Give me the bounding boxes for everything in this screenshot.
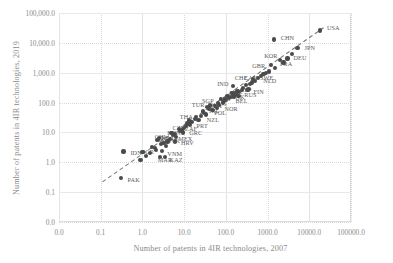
- gridline-vertical: [142, 13, 143, 222]
- y-tick-label: 10.0: [6, 128, 55, 137]
- y-tick-label: 0.1: [6, 188, 55, 197]
- data-point: [164, 144, 168, 148]
- x-axis-title: Number of patents in 4IR technologies, 2…: [0, 244, 393, 253]
- gridline-vertical: [101, 13, 102, 222]
- data-point: [181, 130, 185, 134]
- data-point: [240, 88, 244, 92]
- data-point-label: NOR: [224, 105, 237, 112]
- data-point-label: NZL: [207, 116, 219, 123]
- x-tick-label: 10.0: [178, 228, 191, 237]
- data-point-label: TUR: [192, 101, 205, 108]
- gridline-horizontal: [59, 73, 351, 74]
- data-point: [187, 118, 191, 122]
- data-point: [165, 139, 169, 143]
- data-point: [121, 149, 125, 153]
- y-tick-label: 1.0: [6, 158, 55, 167]
- x-tick-label: 0.0: [54, 228, 63, 237]
- y-tick-label: 10,000.0: [6, 38, 55, 47]
- data-point-label: IND: [217, 80, 228, 87]
- data-point: [140, 150, 144, 154]
- data-point: [219, 97, 223, 101]
- data-point: [169, 131, 173, 135]
- data-point: [208, 103, 212, 107]
- data-point-label: PAK: [128, 176, 140, 183]
- data-point: [201, 109, 205, 113]
- data-point: [236, 94, 240, 98]
- y-tick-label: 100,000.0: [6, 9, 55, 18]
- data-point: [318, 28, 322, 32]
- x-tick-label: 100000.0: [337, 228, 365, 237]
- gridline-vertical: [351, 13, 352, 222]
- x-tick-label: 100.0: [218, 228, 235, 237]
- gridline-horizontal: [59, 192, 351, 193]
- data-point: [281, 60, 285, 64]
- gridline-horizontal: [59, 162, 351, 163]
- data-point-label: CHN: [281, 34, 294, 41]
- data-point: [295, 46, 299, 50]
- data-point: [154, 148, 158, 152]
- data-point: [272, 37, 276, 41]
- data-point-label: JPN: [304, 44, 315, 51]
- data-point: [261, 72, 265, 76]
- data-point: [194, 115, 198, 119]
- data-point-label: CHE: [235, 74, 248, 81]
- gridline-vertical: [59, 13, 60, 222]
- data-point: [246, 87, 250, 91]
- data-point-label: MAR: [158, 156, 172, 163]
- data-point: [221, 100, 225, 104]
- data-point: [119, 176, 123, 180]
- data-point-label: HRV: [181, 139, 194, 146]
- scatter-chart-figure: Number of patents in 4IR technologies, 2…: [0, 0, 393, 263]
- data-point: [235, 89, 239, 93]
- x-tick-label: 0.1: [96, 228, 105, 237]
- x-tick-label: 1000.0: [257, 228, 277, 237]
- y-tick-label: 100.0: [6, 98, 55, 107]
- y-tick-label: 1,000.0: [6, 68, 55, 77]
- gridline-vertical: [268, 13, 269, 222]
- data-point: [138, 158, 142, 162]
- data-point-label: KOR: [264, 52, 277, 59]
- y-tick-label: 0.0: [6, 218, 55, 227]
- data-point: [230, 91, 234, 95]
- gridline-vertical: [226, 13, 227, 222]
- gridline-horizontal: [59, 132, 351, 133]
- data-point: [215, 106, 219, 110]
- x-tick-label: 10000.0: [297, 228, 321, 237]
- data-point-label: DEU: [293, 54, 306, 61]
- data-point: [267, 69, 271, 73]
- data-point-label: USA: [327, 24, 340, 31]
- x-tick-label: 1.0: [138, 228, 147, 237]
- data-point-label: GBR: [252, 62, 265, 69]
- gridline-horizontal: [59, 13, 351, 14]
- data-point: [290, 52, 294, 56]
- gridline-horizontal: [59, 222, 351, 223]
